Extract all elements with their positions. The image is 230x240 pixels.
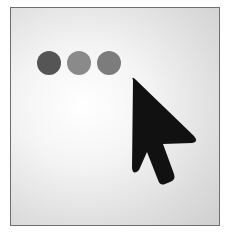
- mouse-pointer-icon: [120, 70, 210, 190]
- dot-icon-1: [37, 51, 61, 75]
- dot-icon-2: [67, 51, 91, 75]
- loading-dots: [37, 51, 121, 75]
- dot-icon-3: [97, 51, 121, 75]
